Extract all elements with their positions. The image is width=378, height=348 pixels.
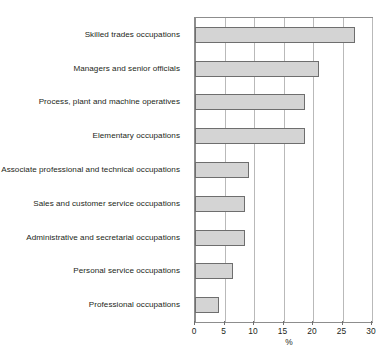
axis-tick <box>224 321 225 325</box>
axis-tick <box>194 321 195 325</box>
value-axis: % 051015202530 <box>194 321 372 348</box>
axis-tick <box>342 321 343 325</box>
category-label: Administrative and secretarial occupatio… <box>0 232 180 241</box>
axis-tick-label: 25 <box>337 326 346 336</box>
axis-tick-label: 20 <box>307 326 316 336</box>
category-axis: Skilled trades occupationsManagers and s… <box>0 17 188 321</box>
bar <box>195 61 319 77</box>
category-label: Managers and senior officials <box>0 63 180 72</box>
gridline <box>372 18 373 322</box>
axis-tick <box>312 321 313 325</box>
bar-series <box>195 18 372 322</box>
category-label: Sales and customer service occupations <box>0 198 180 207</box>
bar <box>195 230 245 246</box>
category-label: Personal service occupations <box>0 266 180 275</box>
plot-area <box>194 17 373 323</box>
category-label: Associate professional and technical occ… <box>0 165 180 174</box>
axis-tick-label: 5 <box>221 326 226 336</box>
bar <box>195 94 305 110</box>
category-label: Elementary occupations <box>0 131 180 140</box>
axis-tick-label: 10 <box>248 326 257 336</box>
bar <box>195 27 355 43</box>
axis-tick <box>371 321 372 325</box>
bar <box>195 263 233 279</box>
axis-tick-label: 0 <box>192 326 197 336</box>
axis-tick-label: 15 <box>278 326 287 336</box>
axis-tick-label: 30 <box>366 326 375 336</box>
axis-unit-label: % <box>285 337 292 347</box>
axis-tick <box>283 321 284 325</box>
category-label: Process, plant and machine operatives <box>0 97 180 106</box>
bar <box>195 297 219 313</box>
bar <box>195 162 249 178</box>
axis-tick <box>253 321 254 325</box>
bar-chart: Skilled trades occupationsManagers and s… <box>0 0 378 348</box>
category-label: Professional occupations <box>0 300 180 309</box>
category-label: Skilled trades occupations <box>0 29 180 38</box>
bar <box>195 196 245 212</box>
bar <box>195 128 305 144</box>
